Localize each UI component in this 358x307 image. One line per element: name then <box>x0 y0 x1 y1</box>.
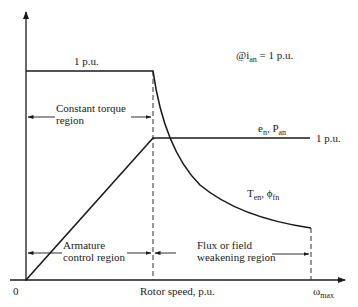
torque-curve-label: Ten, ϕfn <box>247 187 279 202</box>
max-speed-label: ωmax <box>313 285 334 300</box>
x-axis-label: Rotor speed, p.u. <box>140 285 215 297</box>
power-curve-label: en, Pan <box>258 122 286 137</box>
torque-curve <box>26 71 311 228</box>
constant-torque-label-2: region <box>56 114 85 126</box>
field-weakening-label-2: weakening region <box>197 251 276 263</box>
power-level-label: 1 p.u. <box>316 132 341 144</box>
condition-note: @ian = 1 p.u. <box>236 49 293 64</box>
constant-torque-label: Constant torque <box>56 102 126 114</box>
torque-level-label: 1 p.u. <box>74 55 99 67</box>
origin-label: 0 <box>13 285 19 297</box>
torque-speed-diagram: @ian = 1 p.u. 1 p.u. Constant torque reg… <box>0 0 358 307</box>
field-weakening-label: Flux or field <box>197 239 252 251</box>
armature-control-label-2: control region <box>63 251 126 263</box>
armature-control-label: Armature <box>63 239 105 251</box>
